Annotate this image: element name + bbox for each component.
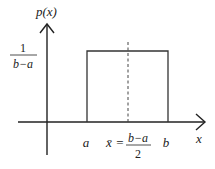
mean-label: x̄ = b−a 2 (105, 131, 151, 161)
height-label-denominator: b−a (13, 57, 33, 71)
tick-label-b: b (163, 135, 170, 150)
tick-label-a: a (83, 135, 90, 150)
mean-equals: = (116, 135, 123, 150)
uniform-pdf-diagram: p(x) 1 b−a a x̄ = b−a 2 b x (0, 0, 215, 169)
x-axis-label: x (195, 131, 202, 146)
y-axis (40, 24, 54, 155)
height-label: 1 b−a (10, 41, 37, 71)
mean-numerator: b−a (128, 131, 148, 145)
y-axis-label: p(x) (35, 4, 57, 19)
height-label-numerator: 1 (20, 41, 26, 55)
x-axis (18, 114, 205, 130)
mean-symbol: x̄ (105, 135, 112, 150)
mean-denominator: 2 (135, 147, 141, 161)
